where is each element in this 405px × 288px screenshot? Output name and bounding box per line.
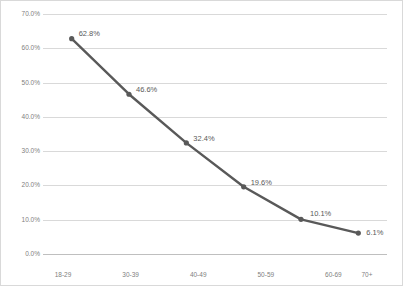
data-point-label: 32.4% [193, 135, 214, 143]
data-point-marker [298, 217, 303, 222]
y-axis-tick-label: 40.0% [0, 114, 40, 121]
data-point-label: 6.1% [366, 229, 383, 237]
x-axis-tick-label: 18-29 [33, 272, 93, 279]
plot-area: 70.0% 60.0% 50.0% 40.0% 30.0% 20.0% 10.0… [43, 14, 387, 254]
data-point-marker [356, 230, 361, 235]
data-point-label: 10.1% [310, 210, 331, 218]
data-series-line [43, 14, 387, 254]
data-point-marker [126, 92, 131, 97]
y-axis-tick-label: 50.0% [0, 79, 40, 86]
y-axis-tick-label: 30.0% [0, 148, 40, 155]
x-axis-line [43, 254, 387, 255]
data-point-label: 62.8% [79, 30, 100, 38]
data-point-label: 46.6% [136, 86, 157, 94]
y-axis-tick-label: 20.0% [0, 182, 40, 189]
y-axis-tick-label: 70.0% [0, 11, 40, 18]
data-point-marker [69, 36, 74, 41]
x-axis-tick-label: 50-59 [236, 272, 296, 279]
data-point-marker [184, 140, 189, 145]
data-point-label: 19.6% [251, 179, 272, 187]
chart-container: 70.0% 60.0% 50.0% 40.0% 30.0% 20.0% 10.0… [0, 0, 403, 286]
x-axis-tick-label: 30-39 [101, 272, 161, 279]
x-axis-tick-label: 70+ [337, 272, 397, 279]
y-axis-tick-label: 60.0% [0, 45, 40, 52]
y-axis-tick-label: 10.0% [0, 216, 40, 223]
data-point-marker [241, 184, 246, 189]
x-axis-tick-label: 40-49 [168, 272, 228, 279]
series-markers [69, 36, 361, 236]
y-axis-tick-label: 0.0% [0, 251, 40, 258]
